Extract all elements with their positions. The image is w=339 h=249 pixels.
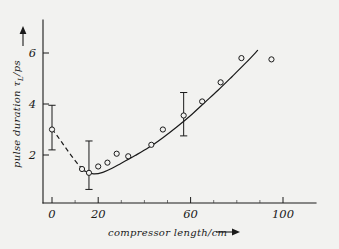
data-point: [200, 99, 205, 104]
x-tick-label: 100: [272, 207, 294, 221]
data-point: [126, 154, 131, 159]
x-tick-label: 20: [90, 207, 106, 221]
pulse-duration-chart: 24602060100 pulse duration τL/ps compres…: [0, 0, 339, 249]
data-point: [149, 142, 154, 147]
y-label-units: /ps: [11, 60, 22, 77]
y-tick-label: 2: [28, 148, 36, 162]
data-point: [160, 127, 165, 132]
x-tick-label: 60: [183, 207, 198, 221]
figure-container: 24602060100 pulse duration τL/ps compres…: [0, 0, 339, 249]
y-tick-label: 4: [28, 97, 36, 111]
data-point: [181, 113, 186, 118]
data-point: [239, 56, 244, 61]
data-point: [96, 164, 101, 169]
data-point: [114, 151, 119, 156]
data-point: [269, 57, 274, 62]
data-point: [79, 166, 84, 171]
y-tick-label: 6: [29, 46, 36, 60]
data-point: [49, 127, 54, 132]
y-label-text: pulse duration: [11, 87, 22, 168]
x-axis-label: compressor length/cm: [108, 227, 227, 238]
data-point: [105, 160, 110, 165]
x-tick-label: 0: [48, 207, 55, 221]
data-point: [86, 170, 91, 175]
data-point: [218, 80, 223, 85]
